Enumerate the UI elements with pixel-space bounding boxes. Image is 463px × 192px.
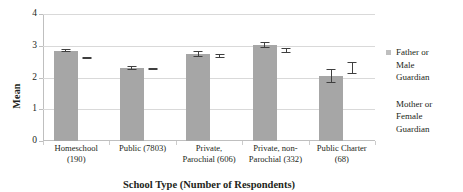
error-bar-cap-bottom [327, 82, 336, 83]
error-bar-cap-bottom [348, 73, 357, 74]
marker-error-bar [149, 68, 158, 71]
bar [186, 54, 210, 141]
error-bar [327, 69, 336, 83]
x-tick-label: Public (7803) [106, 143, 180, 154]
gridline [43, 14, 375, 15]
marker-error-bar [215, 54, 224, 58]
error-bar [61, 49, 70, 52]
legend-label-line: Mother or [396, 98, 463, 111]
y-tick-label: 4 [32, 9, 37, 19]
y-axis-title: Mean [11, 83, 22, 108]
x-tick-label-line: Parochial (606) [172, 154, 246, 165]
error-bar-cap-bottom [82, 58, 91, 59]
error-bar [194, 51, 203, 57]
error-bar-cap-bottom [260, 47, 269, 48]
x-tick-label-line: (68) [305, 154, 379, 165]
x-tick-label: Private,Parochial (606) [172, 143, 246, 165]
error-bar-cap-bottom [215, 57, 224, 58]
x-tick-label-line: (190) [39, 154, 113, 165]
error-bar-cap-bottom [282, 52, 291, 53]
legend-item: Father orMaleGuardian [386, 46, 463, 84]
y-tick-label: 3 [32, 41, 37, 51]
x-axis-title-wrap: School Type (Number of Respondents) [43, 178, 375, 192]
error-bar [260, 42, 269, 48]
marker-error-bar [282, 48, 291, 52]
x-axis-title: School Type (Number of Respondents) [43, 179, 375, 190]
x-tick-label-line: Parochial (332) [238, 154, 312, 165]
y-tick-label: 2 [32, 73, 37, 83]
legend-label-line: Guardian [396, 71, 463, 84]
error-bar-cap-bottom [61, 51, 70, 52]
y-tick [39, 46, 43, 47]
x-tick-label-line: Homeschool [39, 143, 113, 154]
gridline [43, 46, 375, 47]
bar-chart: Mean 01234 Homeschool(190)Public (7803)P… [0, 0, 463, 192]
x-tick-label-line: Private, non- [238, 143, 312, 154]
y-tick [39, 78, 43, 79]
y-tick-label: 1 [32, 105, 37, 115]
x-axis-tick-labels: Homeschool(190)Public (7803)Private,Paro… [43, 143, 375, 169]
marker-error-bar [82, 57, 91, 59]
legend-swatch-icon [386, 50, 391, 55]
x-tick-label: Public Charter(68) [305, 143, 379, 165]
legend-label-line: Father or [396, 46, 463, 59]
legend-label-line: Female [396, 110, 463, 123]
chart-legend: Father orMaleGuardianMother orFemaleGuar… [386, 46, 463, 136]
bar [120, 68, 144, 141]
legend-item: Mother orFemaleGuardian [386, 98, 463, 136]
error-bar [127, 66, 136, 69]
error-bar-cap-bottom [127, 69, 136, 70]
error-bar-stem [331, 69, 332, 83]
x-tick-label-line: Public Charter [305, 143, 379, 154]
legend-label-line: Male [396, 59, 463, 72]
x-tick-label: Homeschool(190) [39, 143, 113, 165]
y-tick [39, 14, 43, 15]
bar [54, 51, 78, 141]
plot-area: 01234 [43, 14, 375, 141]
legend-label-line: Guardian [396, 123, 463, 136]
marker-error-bar [348, 62, 357, 73]
x-tick-label-line: Private, [172, 143, 246, 154]
bar [319, 76, 343, 141]
y-tick [39, 109, 43, 110]
bar [253, 45, 277, 141]
error-bar-cap-bottom [149, 69, 158, 70]
x-tick-label-line: Public (7803) [106, 143, 180, 154]
error-bar-cap-bottom [194, 56, 203, 57]
x-tick-label: Private, non-Parochial (332) [238, 143, 312, 165]
y-tick-label: 0 [32, 136, 37, 146]
